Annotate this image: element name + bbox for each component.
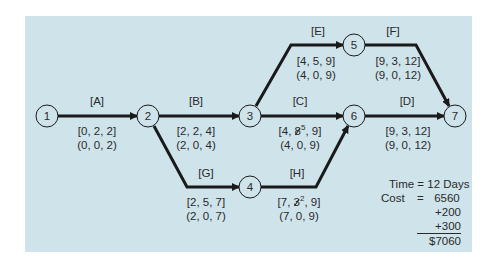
triplet-suffix: , 9] xyxy=(304,196,320,208)
cost-equals: = xyxy=(417,192,424,204)
activity-G-bottom-triplet: (2, 0, 7) xyxy=(186,209,226,223)
cost-add-2: +300 xyxy=(381,219,469,233)
activity-F-name: [F] xyxy=(386,24,399,38)
node-label: 6 xyxy=(351,110,357,122)
time-cost-summary: Time = 12 Days Cost=6560 +200 +300 $7060 xyxy=(381,177,469,248)
node-label: 7 xyxy=(452,110,458,122)
cost-base: 6560 xyxy=(424,191,460,205)
cost-label-text: Cost xyxy=(381,192,405,204)
node-4: 4 xyxy=(239,176,261,198)
activity-A-bottom-triplet: (0, 0, 2) xyxy=(77,138,117,152)
node-7: 7 xyxy=(444,105,466,127)
node-5: 5 xyxy=(343,34,365,56)
activity-H-name: [H] xyxy=(290,166,305,180)
activity-C-name: [C] xyxy=(293,94,308,108)
activity-E-bottom-triplet: (4, 0, 9) xyxy=(296,68,336,82)
node-label: 4 xyxy=(247,181,254,193)
node-label: 2 xyxy=(145,110,151,122)
triplet-prefix: [7, xyxy=(278,196,294,208)
triplet-prefix: [4, xyxy=(279,125,295,137)
activity-D-top-triplet: [9, 3, 12] xyxy=(386,124,431,138)
node-label: 3 xyxy=(247,110,253,122)
cost-add-1: +200 xyxy=(381,205,469,219)
node-3: 3 xyxy=(239,105,261,127)
struck-duration: 3 xyxy=(294,195,300,209)
cost-total-line: $7060 xyxy=(381,233,469,248)
time-line: Time = 12 Days xyxy=(381,177,469,191)
triplet-suffix: , 9] xyxy=(305,125,321,137)
activity-F-top-triplet: [9, 3, 12] xyxy=(376,54,421,68)
activity-E-name: [E] xyxy=(311,24,325,38)
activity-C-bottom-triplet: (4, 0, 9) xyxy=(280,138,320,152)
activity-H-top-triplet: [7, 32, 9] xyxy=(278,195,321,209)
activity-D-bottom-triplet: (9, 0, 12) xyxy=(385,138,431,152)
cost-total: $7060 xyxy=(417,233,461,248)
activity-E-top-triplet: [4, 5, 9] xyxy=(297,54,335,68)
activity-G-name: [G] xyxy=(198,166,213,180)
node-6: 6 xyxy=(343,105,365,127)
activity-C-top-triplet: [4, 85, 9] xyxy=(279,124,322,138)
activity-B-top-triplet: [2, 2, 4] xyxy=(177,124,215,138)
activity-H-bottom-triplet: (7, 0, 9) xyxy=(279,209,319,223)
activity-D-name: [D] xyxy=(400,94,415,108)
activity-A-name: [A] xyxy=(90,94,104,108)
node-label: 5 xyxy=(351,39,357,51)
activity-B-name: [B] xyxy=(189,94,203,108)
activity-A-top-triplet: [0, 2, 2] xyxy=(78,124,116,138)
cost-line: Cost=6560 xyxy=(381,191,469,205)
struck-duration: 8 xyxy=(295,124,301,138)
cost-label: Cost xyxy=(381,191,417,205)
node-1: 1 xyxy=(36,105,58,127)
activity-F-bottom-triplet: (9, 0, 12) xyxy=(375,68,421,82)
activity-G-top-triplet: [2, 5, 7] xyxy=(187,195,225,209)
activity-B-bottom-triplet: (2, 0, 4) xyxy=(176,138,216,152)
cost-add-2-value: +300 xyxy=(417,219,461,233)
node-label: 1 xyxy=(44,110,50,122)
node-2: 2 xyxy=(137,105,159,127)
cost-add-1-value: +200 xyxy=(417,205,461,219)
